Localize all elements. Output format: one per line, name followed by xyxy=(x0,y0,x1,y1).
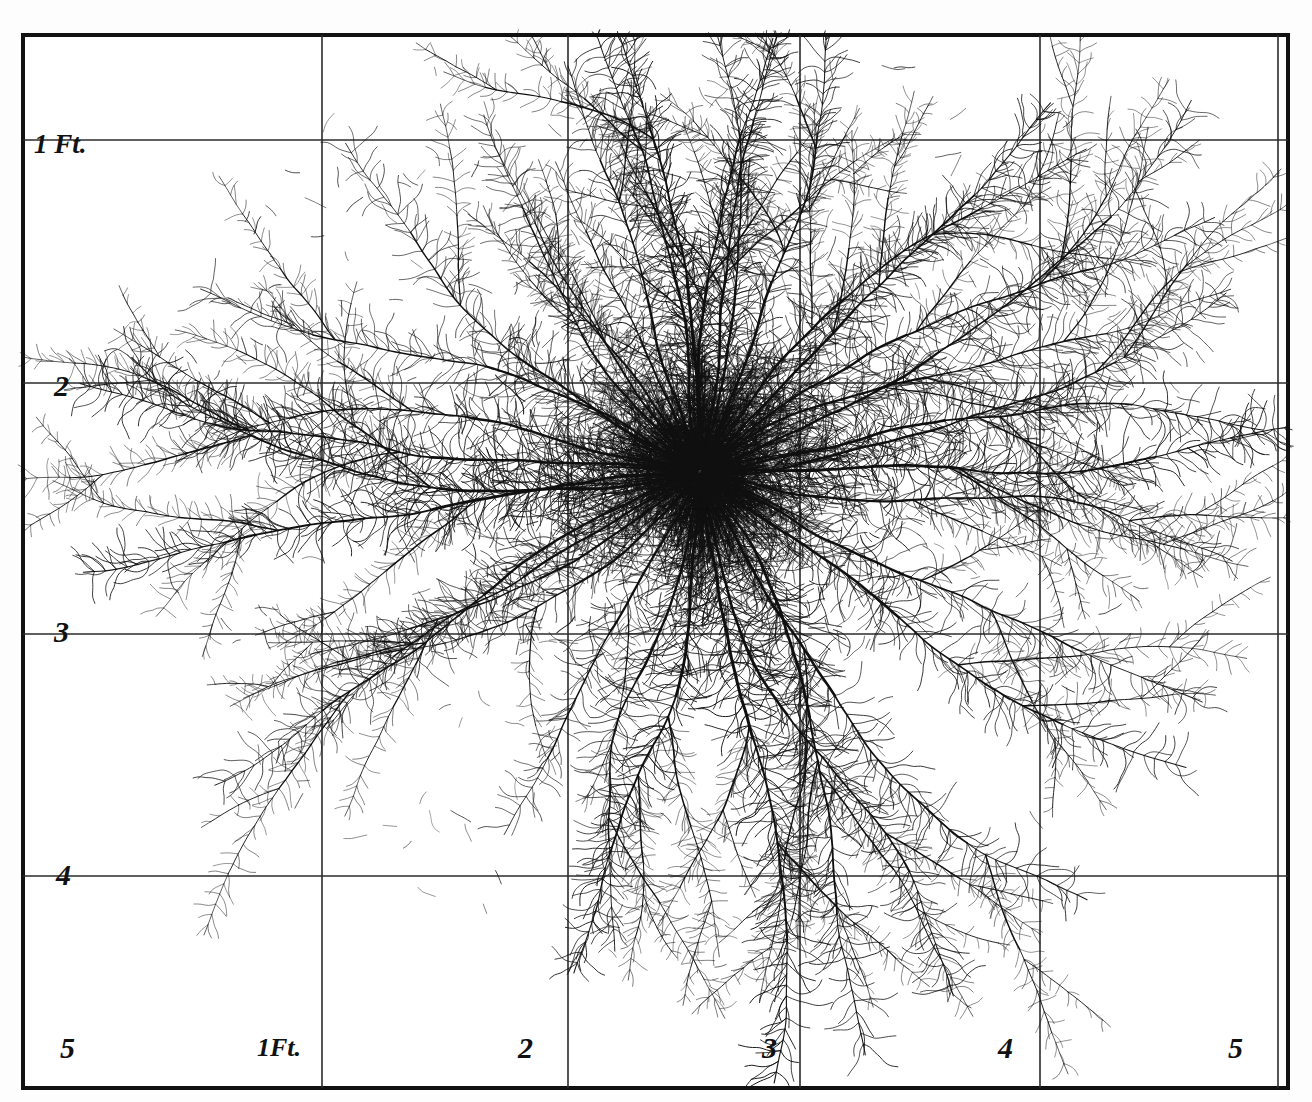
root-system-figure: 1 Ft. 2 3 4 5 1Ft. 2 3 4 5 xyxy=(0,0,1312,1102)
y-axis-label-4: 4 xyxy=(56,860,71,890)
y-axis-label-2: 2 xyxy=(54,371,69,401)
x-axis-label-1ft: 1Ft. xyxy=(257,1035,301,1061)
y-axis-label-3: 3 xyxy=(54,617,69,647)
y-axis-label-5: 5 xyxy=(60,1033,75,1063)
x-axis-label-2: 2 xyxy=(518,1033,533,1063)
y-axis-label-1ft: 1 Ft. xyxy=(34,131,87,158)
x-axis-label-3: 3 xyxy=(762,1033,777,1063)
x-axis-label-5: 5 xyxy=(1228,1033,1243,1063)
axis-label-layer: 1 Ft. 2 3 4 5 1Ft. 2 3 4 5 xyxy=(0,0,1312,1102)
x-axis-label-4: 4 xyxy=(998,1033,1013,1063)
